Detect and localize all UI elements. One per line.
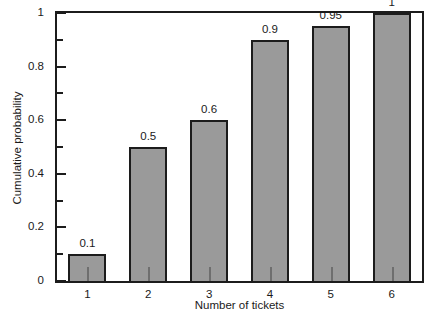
y-axis-title: Cumulative probability (11, 78, 23, 218)
y-axis-minor-tick (57, 92, 63, 94)
bar (312, 26, 350, 281)
bar-value-label: 0.9 (240, 24, 300, 36)
bar (129, 147, 167, 281)
y-axis-tick-label: 0.8 (0, 61, 44, 73)
y-axis-major-tick (57, 280, 66, 282)
x-axis-tick-label: 5 (301, 289, 361, 301)
bar-value-label: 0.6 (179, 104, 239, 116)
x-axis-tick-label: 6 (362, 289, 422, 301)
y-axis-major-tick (57, 119, 66, 121)
bar (190, 120, 228, 281)
bar-value-label: 0.95 (301, 10, 361, 22)
y-axis-major-tick (57, 226, 66, 228)
x-axis-tick-label: 4 (240, 289, 300, 301)
y-axis-tick-label: 0.2 (0, 221, 44, 233)
x-axis-title: Number of tickets (55, 299, 424, 311)
x-axis-tick (270, 267, 272, 281)
y-axis-minor-tick (57, 146, 63, 148)
x-axis-tick-label: 1 (57, 289, 117, 301)
y-axis-minor-tick (57, 200, 63, 202)
bar (373, 13, 411, 281)
bar-value-label: 1 (362, 0, 422, 9)
y-axis-tick-label: 0.4 (0, 168, 44, 180)
y-axis-major-tick (57, 66, 66, 68)
x-axis-tick-label: 3 (179, 289, 239, 301)
x-axis-tick (148, 267, 150, 281)
x-axis-tick (209, 267, 211, 281)
chart-figure: Cumulative probability Number of tickets… (0, 0, 439, 318)
y-axis-tick-label: 1 (0, 7, 44, 19)
x-axis-tick (392, 267, 394, 281)
y-axis-minor-tick (57, 253, 63, 255)
bar (251, 40, 289, 281)
y-axis-major-tick (57, 12, 66, 14)
x-axis-tick (331, 267, 333, 281)
y-axis-tick-label: 0.6 (0, 114, 44, 126)
x-axis-tick (87, 267, 89, 281)
y-axis-major-tick (57, 173, 66, 175)
y-axis-minor-tick (57, 39, 63, 41)
bar-value-label: 0.1 (57, 238, 117, 250)
bar-value-label: 0.5 (118, 131, 178, 143)
x-axis-tick-label: 2 (118, 289, 178, 301)
y-axis-tick-label: 0 (0, 275, 44, 287)
